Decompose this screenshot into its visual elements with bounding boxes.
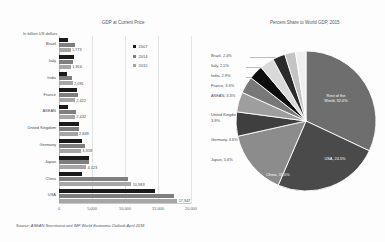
- pie-callout-asean: ASEAN, 3.3%: [211, 94, 235, 99]
- bar-row: [59, 156, 191, 160]
- bar-chart-plot-area: Brazil1,773Italy1,816India2,091France2,4…: [59, 36, 191, 204]
- bar-row: [59, 122, 191, 126]
- bar-category-label: Italy: [49, 59, 56, 63]
- bar-2007: [59, 55, 74, 59]
- bar-row: [59, 189, 191, 193]
- bar-2015: 2,422: [59, 98, 75, 102]
- bar-2014: [59, 144, 85, 148]
- bar-2015: 10,983: [59, 182, 131, 186]
- bar-group: India2,091: [59, 72, 191, 89]
- bar-value-label: 2,432: [76, 114, 86, 119]
- pie-callout-united-kingdom-value: 3.9%: [211, 119, 220, 124]
- bar-2014: [59, 110, 76, 114]
- bar-row: 1,773: [59, 48, 191, 52]
- bar-row: [59, 72, 191, 76]
- bar-2015: 1,816: [59, 65, 71, 69]
- bar-2014: [59, 160, 89, 164]
- pie-chart-panel: Percent Share to World GDP, 2015 Brazil,…: [208, 0, 385, 242]
- bar-2014: [59, 194, 174, 198]
- bar-category-label: China: [46, 177, 56, 181]
- bar-2015: 2,432: [59, 115, 75, 119]
- gridline-20000: [191, 36, 192, 204]
- bar-row: 2,422: [59, 98, 191, 102]
- bar-2007: [59, 139, 82, 143]
- bar-category-label: Japan: [45, 160, 56, 164]
- pie-slice-label-usa: USA, 24.5%: [318, 157, 352, 162]
- bar-value-label: 10,983: [133, 182, 145, 187]
- bar-value-label: 1,816: [72, 64, 82, 69]
- bar-value-label: 4,123: [87, 165, 97, 170]
- bar-row: 1,816: [59, 65, 191, 69]
- bar-row: 2,849: [59, 132, 191, 136]
- bar-group: Germany3,358: [59, 139, 191, 156]
- pie-slice-label-china-text: China, 15.0%: [266, 172, 289, 177]
- pie-chart-graphic: [233, 48, 379, 194]
- bar-group: France2,422: [59, 88, 191, 105]
- bar-category-label: Germany: [40, 143, 56, 147]
- bar-chart-title: GDP at Current Price: [102, 20, 144, 25]
- bar-2015: 3,358: [59, 149, 81, 153]
- bar-row: [59, 194, 191, 198]
- bar-2007: [59, 72, 67, 76]
- bar-group: China10,983: [59, 172, 191, 189]
- bar-row: [59, 172, 191, 176]
- bar-value-label: 2,422: [76, 98, 86, 103]
- bar-2007: [59, 122, 79, 126]
- x-axis-tick: 10,000: [119, 206, 131, 211]
- bar-category-label: ASEAN: [42, 109, 56, 113]
- pie-callout-france: France, 3.3%: [211, 84, 234, 89]
- pie-slice-label-rest-of-world: Rest of the World, 32.0%: [318, 94, 354, 104]
- bar-chart-panel: GDP at Current Price In billion US dolla…: [0, 0, 208, 242]
- bar-row: 10,983: [59, 182, 191, 186]
- bar-2007: [59, 189, 155, 193]
- bar-2014: [59, 93, 78, 97]
- pie-callout-brazil: Brazil, 2.4%: [211, 54, 232, 59]
- bar-2007: [59, 105, 68, 109]
- pie-slice-label-rest-of-world-line2: World, 32.0%: [324, 98, 347, 103]
- bar-row: 2,432: [59, 115, 191, 119]
- bar-2014: [59, 76, 72, 80]
- bar-2015: 4,123: [59, 165, 86, 169]
- bar-value-label: 17,947: [179, 198, 191, 203]
- x-axis-tick: 0: [58, 206, 60, 211]
- bar-2014: [59, 127, 79, 131]
- bar-2015: 1,773: [59, 48, 71, 52]
- bar-value-label: 2,091: [74, 81, 84, 86]
- bar-row: [59, 139, 191, 143]
- bar-category-label: India: [47, 76, 56, 80]
- x-axis-tick: 15,000: [152, 206, 164, 211]
- bar-row: [59, 55, 191, 59]
- bar-2014: [59, 60, 73, 64]
- bar-value-label: 1,773: [72, 47, 82, 52]
- bar-group: Japan4,123: [59, 156, 191, 173]
- chart-figure: GDP at Current Price In billion US dolla…: [0, 0, 385, 242]
- bar-row: [59, 105, 191, 109]
- pie-callout-india: India, 2.9%: [211, 74, 230, 79]
- bar-group: Brazil1,773: [59, 38, 191, 55]
- source-note: Source: ASEAN Secretariat and IMF World …: [16, 223, 145, 228]
- bar-row: [59, 88, 191, 92]
- bar-value-label: 3,358: [82, 148, 92, 153]
- bar-2015: 17,947: [59, 199, 177, 203]
- bar-2014: [59, 177, 128, 181]
- bar-row: [59, 38, 191, 42]
- pie-slice-label-usa-text: USA, 24.5%: [324, 156, 345, 161]
- bar-2007: [59, 38, 68, 42]
- bar-row: [59, 177, 191, 181]
- bar-row: 2,091: [59, 81, 191, 85]
- pie-chart-title: Percent Share to World GDP, 2015: [270, 20, 340, 25]
- bar-chart-unit-label: In billion US dollars: [23, 31, 57, 36]
- pie-callout-japan: Japan, 5.6%: [211, 158, 233, 163]
- bar-row: [59, 144, 191, 148]
- bar-category-label: Brazil: [46, 42, 56, 46]
- bar-row: 3,358: [59, 149, 191, 153]
- pie-svg: [233, 48, 379, 194]
- bar-group: ASEAN2,432: [59, 105, 191, 122]
- bar-2007: [59, 88, 77, 92]
- bar-value-label: 2,849: [79, 131, 89, 136]
- bar-category-label: USA: [48, 193, 56, 197]
- bar-2015: 2,849: [59, 132, 78, 136]
- bar-2007: [59, 172, 82, 176]
- x-axis-tick-labels: 05,00010,00015,00020,000: [59, 206, 191, 215]
- bar-row: [59, 160, 191, 164]
